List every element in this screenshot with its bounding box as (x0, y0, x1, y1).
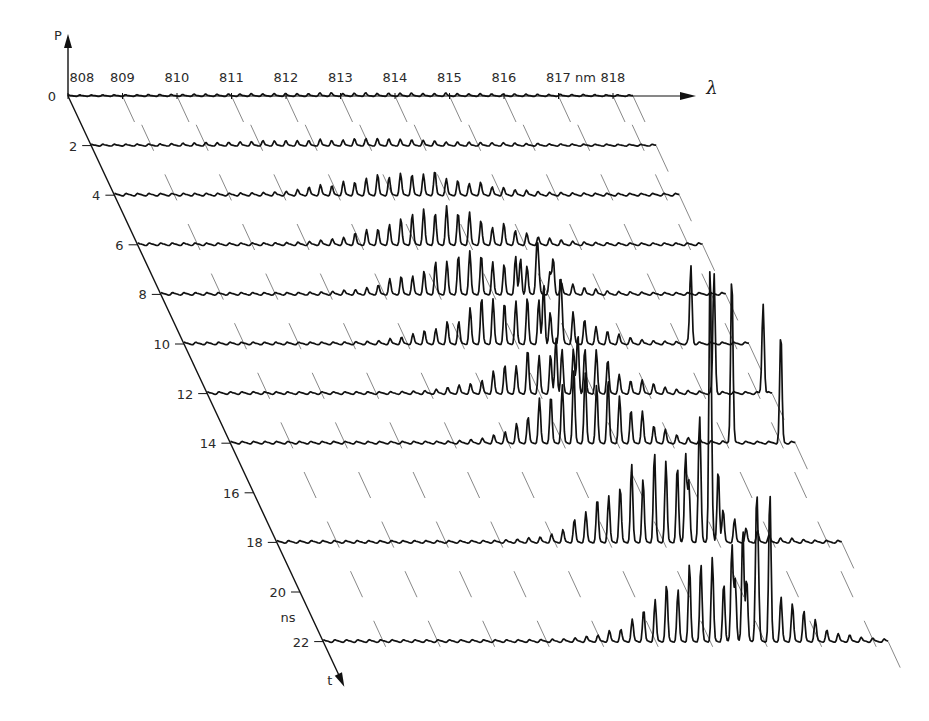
wavelength-guide-tick (709, 522, 721, 548)
wavelength-guide-tick (359, 472, 371, 498)
axes (64, 34, 696, 687)
wavelength-guide-tick (740, 472, 752, 498)
wavelength-guide-tick (274, 174, 286, 200)
wavelength-guide-tick (492, 174, 504, 200)
wavelength-tick-marks (123, 96, 901, 668)
wavelength-guide-tick (327, 522, 339, 548)
spectrum-trace-t22 (323, 497, 888, 643)
wavelength-guide-tick (523, 125, 535, 151)
wavelength-guide-tick (398, 323, 410, 349)
wavelength-guide-tick (795, 472, 807, 498)
lambda-tick-label: 815 (437, 70, 462, 85)
t-tick-label: 22 (293, 635, 310, 650)
t-unit-label: ns (281, 610, 296, 625)
wavelength-guide-tick (320, 274, 332, 300)
lambda-tick-label: 817 (546, 70, 571, 85)
wavelength-guide-tick (351, 571, 363, 597)
lambda-tick-label: 813 (328, 70, 353, 85)
trace-end-tick (679, 195, 691, 221)
lambda-tick-label: 809 (110, 70, 135, 85)
trace-end-tick (749, 344, 761, 370)
spectrum-trace-t10 (184, 266, 749, 345)
wavelength-guide-tick (578, 125, 590, 151)
wavelength-guide-tick (375, 274, 387, 300)
lambda-tick-label: 812 (274, 70, 299, 85)
spectrum-trace-t4 (114, 173, 679, 196)
wavelength-guide-tick (436, 522, 448, 548)
wavelength-guide-tick (864, 621, 876, 647)
wavelength-guide-tick (367, 373, 379, 399)
trace-end-tick (888, 642, 900, 668)
lambda-tick-label: 818 (601, 70, 626, 85)
wavelength-guide-tick (491, 522, 503, 548)
wavelength-guide-tick (196, 125, 208, 151)
wavelength-guide-tick (142, 125, 154, 151)
wavelength-guide-tick (344, 323, 356, 349)
wavelength-guide-tick (177, 96, 189, 122)
wavelength-guide-tick (297, 224, 309, 250)
trace-end-tick (633, 96, 645, 122)
wavelength-guide-tick (188, 224, 200, 250)
p-axis-label: P (54, 28, 62, 43)
wavelength-guide-tick (450, 96, 462, 122)
lambda-axis-label: λ (705, 77, 717, 98)
wavelength-guide-tick (483, 621, 495, 647)
lambda-unit-label: nm (575, 70, 596, 85)
trace-end-tick (795, 443, 807, 469)
t-tick-label: 6 (115, 238, 123, 253)
wavelength-guide-tick (413, 472, 425, 498)
wavelength-guide-tick (504, 96, 516, 122)
t-tick-label: 2 (69, 139, 77, 154)
wavelength-guide-tick (522, 472, 534, 498)
spectral-traces (68, 93, 888, 643)
wavelength-guide-tick (421, 373, 433, 399)
trace-end-tick (703, 245, 715, 271)
wavelength-guide-tick (460, 571, 472, 597)
axis-labels: P0808809810811812813814815816817818nmλ24… (48, 28, 718, 688)
wavelength-guide-tick (305, 125, 317, 151)
spectrum-trace-t8 (161, 243, 726, 296)
lambda-tick-label: 811 (219, 70, 244, 85)
spectrum-trace-t2 (91, 139, 656, 147)
wavelength-guide-tick (304, 472, 316, 498)
wavelength-guide-tick (232, 96, 244, 122)
wavelength-guide-tick (569, 571, 581, 597)
t-tick-label: 10 (153, 337, 170, 352)
wavelength-guide-tick (537, 621, 549, 647)
waterfall-spectra-chart: P0808809810811812813814815816817818nmλ24… (0, 0, 929, 721)
wavelength-guide-tick (165, 174, 177, 200)
lambda-tick-label: 808 (70, 70, 95, 85)
t-tick-label: 16 (223, 486, 240, 501)
wavelength-guide-tick (374, 621, 386, 647)
p-axis-arrow-icon (64, 34, 72, 48)
wavelength-guide-tick (429, 274, 441, 300)
lambda-tick-label: 814 (383, 70, 408, 85)
t-tick-label: 18 (246, 535, 263, 550)
wavelength-guide-tick (395, 96, 407, 122)
wavelength-guide-tick (341, 96, 353, 122)
wavelength-guide-tick (328, 174, 340, 200)
wavelength-guide-tick (468, 472, 480, 498)
wavelength-guide-tick (841, 571, 853, 597)
wavelength-guide-tick (559, 96, 571, 122)
t-tick-label: 12 (177, 387, 194, 402)
wavelength-guide-tick (281, 422, 293, 448)
wavelength-guide-tick (360, 125, 372, 151)
wavelength-guide-tick (405, 571, 417, 597)
wavelength-guide-tick (258, 373, 270, 399)
spectrum-trace-t6 (138, 206, 703, 246)
wavelength-guide-tick (469, 125, 481, 151)
trace-end-tick (656, 146, 668, 172)
t-axis-arrow-icon (335, 672, 345, 686)
wavelength-guide-tick (251, 125, 263, 151)
p-axis-zero-label: 0 (48, 89, 56, 104)
wavelength-guide-tick (123, 96, 135, 122)
wavelength-guide-tick (787, 571, 799, 597)
lambda-tick-label: 816 (492, 70, 517, 85)
wavelength-guide-tick (211, 274, 223, 300)
lambda-tick-label: 810 (165, 70, 190, 85)
t-tick-label: 14 (200, 436, 217, 451)
wavelength-guide-tick (286, 96, 298, 122)
wavelength-guide-tick (390, 422, 402, 448)
t-tick-label: 8 (139, 287, 147, 302)
